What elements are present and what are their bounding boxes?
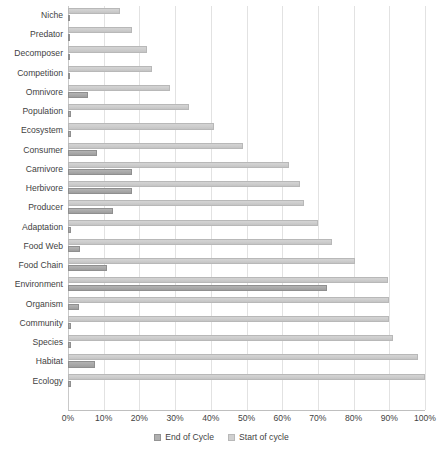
- category-label: Carnivore: [26, 160, 63, 179]
- bar-start-of-cycle: [68, 200, 304, 206]
- bar-end-of-cycle: [68, 227, 71, 233]
- bar-row: Food Chain: [68, 256, 425, 275]
- bar-row: Species: [68, 333, 425, 352]
- x-tick-label: 10%: [95, 413, 112, 423]
- bar-row: Adaptation: [68, 218, 425, 237]
- x-tick-label: 30%: [166, 413, 183, 423]
- bar-start-of-cycle: [68, 374, 425, 380]
- bar-start-of-cycle: [68, 277, 388, 283]
- bar-row: Ecology: [68, 372, 425, 391]
- bar-start-of-cycle: [68, 85, 170, 91]
- bar-start-of-cycle: [68, 104, 189, 110]
- bar-end-of-cycle: [68, 246, 80, 252]
- bar-row: Omnivore: [68, 83, 425, 102]
- bar-end-of-cycle: [68, 323, 71, 329]
- bar-row: Ecosystem: [68, 121, 425, 140]
- horizontal-bar-chart: NichePredatorDecomposerCompetitionOmnivo…: [0, 0, 443, 457]
- category-label: Food Web: [24, 237, 64, 256]
- legend-item[interactable]: End of Cycle: [154, 432, 214, 442]
- bar-row: Carnivore: [68, 160, 425, 179]
- bar-row: Niche: [68, 6, 425, 25]
- category-label: Environment: [15, 275, 63, 294]
- category-label: Organism: [26, 295, 63, 314]
- gridline-100%: [425, 6, 426, 410]
- category-label: Ecosystem: [21, 121, 63, 140]
- legend-item[interactable]: Start of cycle: [228, 432, 289, 442]
- legend-label: Start of cycle: [239, 432, 289, 442]
- category-label: Species: [32, 333, 63, 352]
- legend-swatch-icon: [154, 434, 161, 441]
- bar-end-of-cycle: [68, 342, 71, 348]
- x-tick-label: 50%: [238, 413, 255, 423]
- legend-swatch-icon: [228, 434, 235, 441]
- category-label: Decomposer: [14, 44, 63, 63]
- bar-start-of-cycle: [68, 297, 389, 303]
- category-label: Adaptation: [22, 218, 63, 237]
- category-label: Omnivore: [26, 83, 63, 102]
- x-tick-label: 80%: [345, 413, 362, 423]
- category-label: Herbivore: [26, 179, 63, 198]
- legend-label: End of Cycle: [165, 432, 214, 442]
- category-label: Niche: [41, 6, 63, 25]
- bar-end-of-cycle: [68, 361, 95, 367]
- bar-end-of-cycle: [68, 15, 70, 21]
- bar-row: Consumer: [68, 141, 425, 160]
- bar-start-of-cycle: [68, 354, 418, 360]
- bar-end-of-cycle: [68, 188, 132, 194]
- bar-row: Habitat: [68, 352, 425, 371]
- x-tick-label: 100%: [414, 413, 436, 423]
- x-tick-label: 0%: [62, 413, 74, 423]
- bar-end-of-cycle: [68, 111, 71, 117]
- bar-start-of-cycle: [68, 162, 289, 168]
- category-label: Competition: [17, 64, 63, 83]
- bar-row: Community: [68, 314, 425, 333]
- bar-start-of-cycle: [68, 335, 393, 341]
- bar-start-of-cycle: [68, 181, 300, 187]
- bar-start-of-cycle: [68, 239, 332, 245]
- bar-row: Decomposer: [68, 44, 425, 63]
- category-label: Population: [22, 102, 63, 121]
- bar-end-of-cycle: [68, 381, 71, 387]
- bar-start-of-cycle: [68, 27, 132, 33]
- x-tick-label: 20%: [131, 413, 148, 423]
- bar-end-of-cycle: [68, 131, 71, 137]
- bar-start-of-cycle: [68, 143, 243, 149]
- bar-end-of-cycle: [68, 73, 70, 79]
- x-tick-label: 40%: [202, 413, 219, 423]
- bar-row: Environment: [68, 275, 425, 294]
- bar-row: Competition: [68, 64, 425, 83]
- bar-end-of-cycle: [68, 54, 70, 60]
- bar-end-of-cycle: [68, 34, 70, 40]
- x-tick-label: 90%: [381, 413, 398, 423]
- x-tick-label: 70%: [309, 413, 326, 423]
- bar-start-of-cycle: [68, 220, 318, 226]
- plot-area: NichePredatorDecomposerCompetitionOmnivo…: [68, 6, 425, 410]
- bar-start-of-cycle: [68, 258, 355, 264]
- category-label: Habitat: [36, 352, 63, 371]
- bar-start-of-cycle: [68, 46, 147, 52]
- bar-row: Food Web: [68, 237, 425, 256]
- category-label: Producer: [28, 198, 63, 217]
- category-label: Food Chain: [19, 256, 63, 275]
- bar-row: Organism: [68, 295, 425, 314]
- bar-end-of-cycle: [68, 150, 97, 156]
- bar-end-of-cycle: [68, 208, 113, 214]
- bar-end-of-cycle: [68, 304, 79, 310]
- bar-start-of-cycle: [68, 316, 389, 322]
- bar-end-of-cycle: [68, 265, 107, 271]
- bar-row: Population: [68, 102, 425, 121]
- category-label: Predator: [30, 25, 63, 44]
- bar-start-of-cycle: [68, 66, 152, 72]
- bar-end-of-cycle: [68, 92, 88, 98]
- bar-row: Producer: [68, 198, 425, 217]
- bar-row: Predator: [68, 25, 425, 44]
- category-label: Ecology: [32, 372, 63, 391]
- bar-end-of-cycle: [68, 285, 327, 291]
- x-axis-baseline: [68, 410, 425, 411]
- category-label: Consumer: [23, 141, 63, 160]
- x-tick-label: 60%: [274, 413, 291, 423]
- bar-start-of-cycle: [68, 123, 214, 129]
- bar-end-of-cycle: [68, 169, 132, 175]
- bar-start-of-cycle: [68, 8, 120, 14]
- bar-row: Herbivore: [68, 179, 425, 198]
